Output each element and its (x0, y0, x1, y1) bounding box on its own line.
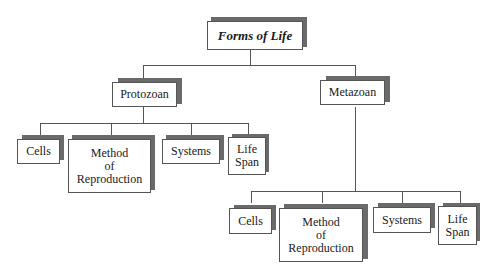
connector-protozoan-down (143, 107, 144, 123)
connector-level1-bar (143, 65, 356, 66)
p-lifespan-label: Life Span (235, 143, 259, 169)
connector-metazoan-children-bar (251, 191, 461, 192)
m-lifespan-box: Life Span (438, 206, 477, 245)
p-systems-box: Systems (162, 139, 220, 164)
m-method-box: Method of Reproduction (279, 208, 363, 262)
m-cells-label: Cells (238, 215, 263, 228)
m-method-label: Method of Reproduction (288, 216, 353, 255)
metazoan-box: Metazoan (320, 80, 385, 105)
connector-m-systems (402, 191, 403, 203)
connector-m-method (322, 191, 323, 203)
root-box: Forms of Life (207, 21, 303, 50)
p-method-box: Method of Reproduction (68, 139, 151, 193)
connector-protozoan-children-bar (40, 123, 249, 124)
m-systems-label: Systems (382, 214, 422, 227)
m-lifespan-label: Life Span (446, 213, 470, 239)
p-lifespan-box: Life Span (228, 137, 266, 175)
protozoan-box: Protozoan (112, 82, 177, 107)
m-cells-box: Cells (229, 208, 272, 234)
connector-p-method (111, 123, 112, 135)
connector-p-cells (40, 123, 41, 135)
root-label: Forms of Life (218, 29, 292, 42)
protozoan-label: Protozoan (120, 88, 169, 101)
p-cells-label: Cells (26, 145, 51, 158)
p-systems-label: Systems (171, 145, 211, 158)
metazoan-label: Metazoan (329, 86, 376, 99)
connector-root-down (250, 50, 251, 65)
connector-metazoan-down (355, 107, 356, 191)
p-cells-box: Cells (17, 139, 60, 164)
connector-m-cells (251, 191, 252, 203)
connector-m-lifespan (460, 191, 461, 203)
m-systems-box: Systems (373, 207, 431, 233)
p-method-label: Method of Reproduction (77, 147, 142, 186)
connector-p-systems (191, 123, 192, 135)
